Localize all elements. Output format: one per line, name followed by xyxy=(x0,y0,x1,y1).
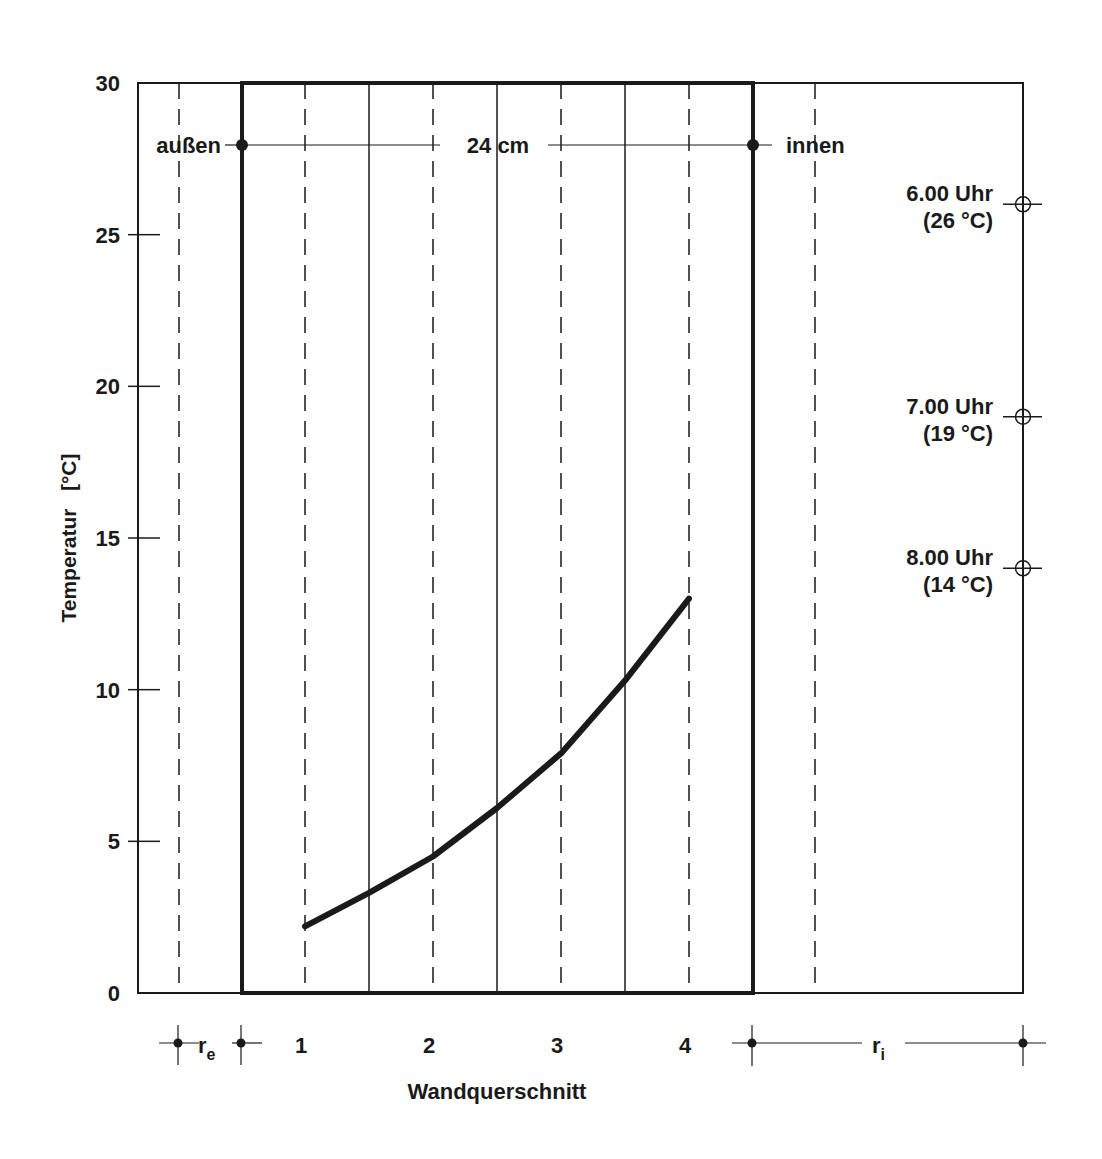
plot-frame xyxy=(138,83,1023,993)
svg-text:re: re xyxy=(198,1033,216,1063)
x-axis-labels: 1234 xyxy=(295,1033,692,1058)
r-e-subscript: e xyxy=(207,1046,216,1063)
wall-thickness-dimension: 24 cm außen innen xyxy=(156,133,844,158)
outside-surface-dot xyxy=(236,139,248,151)
grid-lines xyxy=(179,83,815,993)
time-marker: 7.00 Uhr(19 °C) xyxy=(906,394,1042,446)
y-tick-label: 5 xyxy=(108,829,120,854)
y-tick-label: 30 xyxy=(96,71,120,96)
time-marker: 6.00 Uhr(26 °C) xyxy=(906,181,1042,233)
r-i-subscript: i xyxy=(881,1046,885,1063)
y-tick-label: 10 xyxy=(96,678,120,703)
y-axis-label: Temperatur [°C] xyxy=(57,453,80,622)
x-axis-label: Wandquerschnitt xyxy=(408,1079,588,1104)
r-i-marker: ri xyxy=(732,1025,1046,1066)
y-tick-label: 20 xyxy=(96,374,120,399)
y-tick-label: 25 xyxy=(96,223,120,248)
time-temp-label: (19 °C) xyxy=(923,421,993,446)
svg-text:ri: ri xyxy=(872,1033,885,1063)
y-tick-label: 15 xyxy=(96,526,120,551)
time-temp-label: (14 °C) xyxy=(923,572,993,597)
temperature-chart: 051015202530 Temperatur [°C] 24 cm außen… xyxy=(0,0,1102,1159)
r-e-marker: re xyxy=(159,1025,262,1065)
time-marker: 8.00 Uhr(14 °C) xyxy=(906,545,1042,597)
x-tick-label: 1 xyxy=(295,1033,307,1058)
x-tick-label: 4 xyxy=(679,1033,692,1058)
time-temp-label: (26 °C) xyxy=(923,208,993,233)
y-axis-ticks: 051015202530 xyxy=(96,71,160,1006)
x-tick-label: 3 xyxy=(551,1033,563,1058)
time-label: 7.00 Uhr xyxy=(906,394,993,419)
x-tick-label: 2 xyxy=(423,1033,435,1058)
wall-thickness-label: 24 cm xyxy=(467,133,529,158)
inside-label: innen xyxy=(786,133,845,158)
outside-label: außen xyxy=(156,133,221,158)
time-label: 6.00 Uhr xyxy=(906,181,993,206)
time-markers: 6.00 Uhr(26 °C)7.00 Uhr(19 °C)8.00 Uhr(1… xyxy=(906,181,1042,597)
inside-surface-dot xyxy=(747,139,759,151)
time-label: 8.00 Uhr xyxy=(906,545,993,570)
y-tick-label: 0 xyxy=(108,981,120,1006)
